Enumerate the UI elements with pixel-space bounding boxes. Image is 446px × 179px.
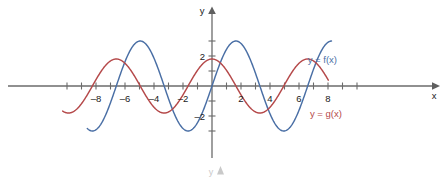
x-axis-label: x [432, 90, 437, 101]
x-tick-label: 8 [325, 93, 330, 104]
x-axis-tick-labels: –8–6–4–22468 [91, 93, 331, 104]
function-graph-plot: –8–6–4–22468 2–2 x y y = f(x)y = g(x) y [0, 0, 446, 179]
x-tick-label: 6 [296, 93, 301, 104]
ghost-arrow-icon [217, 166, 224, 175]
y-tick-label: 2 [200, 51, 205, 62]
x-tick-label: 4 [267, 93, 272, 104]
x-axis-arrow-icon [432, 82, 440, 90]
axes-group [8, 7, 440, 159]
y-axis-arrow-icon [208, 7, 216, 15]
x-tick-label: –8 [91, 93, 102, 104]
chart-figure: –8–6–4–22468 2–2 x y y = f(x)y = g(x) y [0, 0, 446, 179]
y-axis-label: y [200, 5, 205, 16]
f-label: y = f(x) [308, 54, 337, 65]
g-label: y = g(x) [310, 108, 342, 119]
y-tick-label: –2 [194, 111, 205, 122]
x-tick-label: –2 [178, 93, 189, 104]
ghost-axis-artifact: y [209, 166, 224, 177]
ghost-y-label: y [209, 167, 214, 177]
x-tick-label: –4 [149, 93, 160, 104]
x-tick-label: –6 [120, 93, 131, 104]
x-tick-label: 2 [238, 93, 243, 104]
